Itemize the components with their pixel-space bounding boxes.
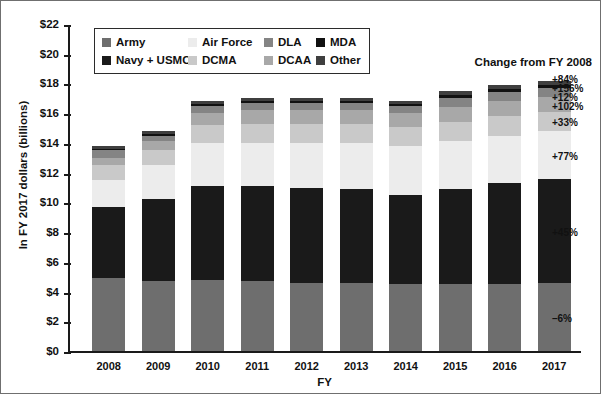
change-label-navy-usmc: +45% xyxy=(552,227,578,238)
bar-segment[interactable] xyxy=(488,284,521,351)
bar-segment[interactable] xyxy=(142,150,175,165)
bar-segment[interactable] xyxy=(389,146,422,195)
legend-swatch xyxy=(102,56,111,65)
bar-segment[interactable] xyxy=(488,92,521,101)
legend-label: Navy + USMC xyxy=(116,54,190,66)
bar-segment[interactable] xyxy=(191,280,224,351)
bar-segment[interactable] xyxy=(142,141,175,150)
bar-2009[interactable]: 2009 xyxy=(142,131,175,351)
bar-2016[interactable]: 2016 xyxy=(488,85,521,351)
legend-item-mda[interactable]: MDA xyxy=(316,36,356,48)
legend-swatch xyxy=(188,56,197,65)
bar-segment[interactable] xyxy=(340,283,373,351)
bar-segment[interactable] xyxy=(92,150,125,157)
bar-segment[interactable] xyxy=(241,110,274,123)
legend-row: Navy + USMCDCMADCAAOther xyxy=(102,51,361,69)
y-axis-title: In FY 2017 dollars (billions) xyxy=(17,65,29,285)
bar-segment[interactable] xyxy=(389,127,422,146)
legend-label: DCMA xyxy=(202,54,237,66)
y-tick-label: $6 xyxy=(46,256,59,268)
bar-2015[interactable]: 2015 xyxy=(439,91,472,351)
bar-segment[interactable] xyxy=(488,101,521,116)
bar-segment[interactable] xyxy=(92,278,125,351)
y-tick-label: $4 xyxy=(46,286,59,298)
change-label-air-force: +77% xyxy=(552,151,578,162)
bar-segment[interactable] xyxy=(439,122,472,141)
bar-segment[interactable] xyxy=(488,183,521,284)
legend-label: Other xyxy=(330,54,361,66)
y-tick-label: $10 xyxy=(40,196,59,208)
bar-segment[interactable] xyxy=(191,106,224,113)
legend-swatch xyxy=(264,38,273,47)
bar-segment[interactable] xyxy=(241,281,274,351)
legend-item-navy-usmc[interactable]: Navy + USMC xyxy=(102,54,188,66)
y-tick-label: $22 xyxy=(40,18,59,30)
legend-item-air-force[interactable]: Air Force xyxy=(188,36,264,48)
chart-legend: ArmyAir ForceDLAMDA Navy + USMCDCMADCAAO… xyxy=(94,28,370,74)
bar-segment[interactable] xyxy=(142,281,175,351)
bar-segment[interactable] xyxy=(340,110,373,123)
bar-segment[interactable] xyxy=(191,125,224,143)
bar-segment[interactable] xyxy=(340,103,373,110)
bar-segment[interactable] xyxy=(488,136,521,184)
bar-segment[interactable] xyxy=(92,180,125,207)
bar-segment[interactable] xyxy=(439,141,472,189)
bar-segment[interactable] xyxy=(191,143,224,186)
bar-segment[interactable] xyxy=(92,158,125,165)
bar-2014[interactable]: 2014 xyxy=(389,101,422,351)
bar-segment[interactable] xyxy=(241,103,274,110)
legend-label: DLA xyxy=(278,36,302,48)
bar-segment[interactable] xyxy=(290,110,323,123)
legend-item-dla[interactable]: DLA xyxy=(264,36,316,48)
legend-row: ArmyAir ForceDLAMDA xyxy=(102,33,361,51)
bar-segment[interactable] xyxy=(191,186,224,280)
bar-segment[interactable] xyxy=(191,113,224,125)
legend-label: Air Force xyxy=(202,36,253,48)
bar-2008[interactable]: 2008 xyxy=(92,146,125,351)
plot-area: $0$2$4$6$8$10$12$14$16$18$20$22 20082009… xyxy=(68,26,581,353)
bar-2010[interactable]: 2010 xyxy=(191,101,224,351)
bar-group: 2008200920102011201220132014201520162017 xyxy=(70,26,581,351)
bar-segment[interactable] xyxy=(389,113,422,126)
legend-item-army[interactable]: Army xyxy=(102,36,188,48)
bar-segment[interactable] xyxy=(340,143,373,189)
bar-segment[interactable] xyxy=(290,124,323,143)
y-tick-label: $12 xyxy=(40,167,59,179)
legend-item-other[interactable]: Other xyxy=(316,54,361,66)
bar-segment[interactable] xyxy=(340,124,373,143)
legend-item-dcma[interactable]: DCMA xyxy=(188,54,264,66)
bar-2012[interactable]: 2012 xyxy=(290,98,323,351)
bar-segment[interactable] xyxy=(290,143,323,188)
bar-segment[interactable] xyxy=(488,116,521,135)
legend-swatch xyxy=(316,38,325,47)
legend-item-dcaa[interactable]: DCAA xyxy=(264,54,316,66)
bar-segment[interactable] xyxy=(241,186,274,281)
change-label-dcma: +33% xyxy=(552,117,578,128)
bar-segment[interactable] xyxy=(290,283,323,351)
bar-segment[interactable] xyxy=(142,165,175,199)
bar-segment[interactable] xyxy=(439,98,472,107)
bar-segment[interactable] xyxy=(92,165,125,180)
bar-segment[interactable] xyxy=(241,143,274,186)
bar-segment[interactable] xyxy=(92,207,125,278)
bar-segment[interactable] xyxy=(290,188,323,283)
y-tick-label: $18 xyxy=(40,77,59,89)
change-label-dcaa: +102% xyxy=(552,101,583,112)
bar-segment[interactable] xyxy=(340,189,373,283)
bar-segment[interactable] xyxy=(389,284,422,351)
bar-2013[interactable]: 2013 xyxy=(340,98,373,351)
legend-swatch xyxy=(316,56,325,65)
chart-figure: In FY 2017 dollars (billions) $0$2$4$6$8… xyxy=(0,0,601,394)
y-tick-label: $16 xyxy=(40,107,59,119)
legend-swatch xyxy=(102,38,111,47)
bar-segment[interactable] xyxy=(439,284,472,351)
bar-segment[interactable] xyxy=(142,199,175,281)
bar-segment[interactable] xyxy=(439,107,472,122)
change-annotation-title: Change from FY 2008 xyxy=(475,56,592,68)
bar-segment[interactable] xyxy=(241,124,274,143)
bar-segment[interactable] xyxy=(389,195,422,284)
bar-segment[interactable] xyxy=(290,103,323,110)
bar-2011[interactable]: 2011 xyxy=(241,98,274,351)
bar-segment[interactable] xyxy=(389,106,422,113)
bar-segment[interactable] xyxy=(439,189,472,284)
